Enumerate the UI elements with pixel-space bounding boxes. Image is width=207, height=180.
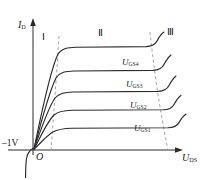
- negative-voltage-label: –1V: [2, 139, 18, 149]
- x-axis-label-sub: DS: [189, 156, 197, 163]
- reverse-breakdown-curve: [26, 148, 34, 178]
- curve-label-ugs4: UGS4: [122, 58, 138, 68]
- characteristics-plot: [0, 0, 207, 180]
- curve-ugs0: [34, 114, 186, 149]
- curve-label-ugs2: UGS2: [130, 101, 146, 111]
- curve-label-ugs4-sub: GS4: [129, 61, 139, 67]
- curve-ugs3: [34, 55, 171, 149]
- region-ii-label: Ⅱ: [98, 29, 103, 39]
- y-axis-arrow: [30, 18, 36, 26]
- curve-label-ugs2-sub: GS2: [137, 104, 147, 110]
- region-iii-label: Ⅲ: [167, 28, 174, 38]
- y-axis-label-sub: D: [21, 23, 25, 30]
- axis-group: [8, 22, 178, 155]
- curve-ugs1: [34, 95, 181, 149]
- curve-family: [34, 32, 186, 149]
- origin-label: O: [36, 152, 43, 162]
- curve-label-ugs1: UGS1: [134, 124, 150, 134]
- figure-canvas: ID UDS O –1V Ⅰ Ⅱ Ⅲ UGS4 UGS3 UGS2 UGS1: [0, 0, 207, 180]
- region-i-label: Ⅰ: [42, 33, 45, 43]
- curve-label-ugs3: UGS3: [126, 80, 142, 90]
- y-axis-label: ID: [18, 20, 26, 31]
- curve-label-ugs3-sub: GS3: [133, 83, 143, 89]
- x-axis-label: UDS: [182, 153, 197, 164]
- curve-label-ugs1-sub: GS1: [141, 127, 151, 133]
